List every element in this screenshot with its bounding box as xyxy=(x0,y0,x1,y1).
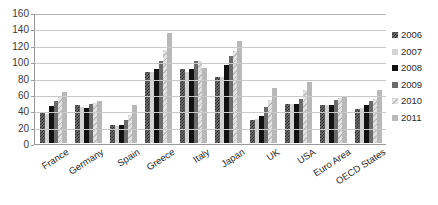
gridline xyxy=(35,47,386,48)
y-tick-label: 100 xyxy=(12,58,29,68)
x-axis-label: Italy xyxy=(191,147,211,165)
y-tick-label: 120 xyxy=(12,42,29,52)
bar xyxy=(342,96,346,143)
legend: 200620072008200920102011 xyxy=(392,27,438,126)
x-axis-label: Germany xyxy=(68,147,106,177)
legend-item[interactable]: 2011 xyxy=(392,110,438,127)
legend-label: 2011 xyxy=(401,113,421,123)
legend-swatch-icon xyxy=(392,65,398,71)
x-axis-label: USA xyxy=(295,147,317,166)
gridline xyxy=(35,112,386,113)
bar-group xyxy=(316,14,351,143)
bar xyxy=(132,105,136,143)
bar-group xyxy=(71,14,106,143)
bar-groups xyxy=(36,14,386,143)
x-axis-label: Spain xyxy=(115,147,141,169)
y-tick-label: 60 xyxy=(18,91,29,101)
legend-item[interactable]: 2006 xyxy=(392,27,438,44)
legend-item[interactable]: 2010 xyxy=(392,93,438,110)
legend-label: 2006 xyxy=(401,30,422,40)
y-tick-label: 140 xyxy=(12,25,29,35)
bar xyxy=(377,90,381,143)
legend-label: 2007 xyxy=(401,47,422,57)
gridline xyxy=(35,129,386,130)
y-tick-label: 20 xyxy=(18,124,29,134)
bar-group xyxy=(211,14,246,143)
x-axis-label: Japan xyxy=(219,147,246,169)
bar-group xyxy=(141,14,176,143)
legend-swatch-icon xyxy=(392,98,398,104)
bar-group xyxy=(36,14,71,143)
gridline xyxy=(35,14,386,15)
bar-group xyxy=(246,14,281,143)
y-tick-label: 0 xyxy=(23,140,29,150)
x-axis-labels: FranceGermanySpainGreeceItalyJapanUKUSAE… xyxy=(34,145,386,205)
bar xyxy=(97,101,101,143)
gridline xyxy=(35,96,386,97)
x-axis-label: UK xyxy=(265,147,282,163)
bar-group xyxy=(176,14,211,143)
y-tick-label: 40 xyxy=(18,107,29,117)
bar-group xyxy=(281,14,316,143)
plot-area xyxy=(34,14,386,145)
bar-chart: 020406080100120140160 FranceGermanySpain… xyxy=(0,0,438,205)
gridline xyxy=(35,63,386,64)
legend-swatch-icon xyxy=(392,115,398,121)
y-tick-label: 80 xyxy=(18,75,29,85)
legend-swatch-icon xyxy=(392,49,398,55)
bar-group xyxy=(351,14,386,143)
y-tick-label: 160 xyxy=(12,9,29,19)
bar xyxy=(62,92,66,143)
bar-group xyxy=(106,14,141,143)
legend-item[interactable]: 2008 xyxy=(392,60,438,77)
gridline xyxy=(35,80,386,81)
gridline xyxy=(35,30,386,31)
y-axis: 020406080100120140160 xyxy=(0,0,34,145)
legend-label: 2009 xyxy=(401,80,422,90)
legend-label: 2010 xyxy=(401,96,422,106)
x-axis-label: Greece xyxy=(145,147,177,172)
legend-item[interactable]: 2009 xyxy=(392,77,438,94)
bar xyxy=(167,33,171,143)
legend-label: 2008 xyxy=(401,63,422,73)
legend-item[interactable]: 2007 xyxy=(392,44,438,61)
legend-swatch-icon xyxy=(392,32,398,38)
legend-swatch-icon xyxy=(392,82,398,88)
